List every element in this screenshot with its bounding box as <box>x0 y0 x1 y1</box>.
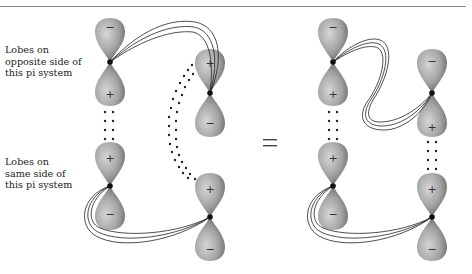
sign-minus-icon: − <box>205 117 214 130</box>
sign-minus-icon: − <box>105 21 114 34</box>
ribbon-c1-d1 <box>333 39 432 130</box>
sign-plus-icon: + <box>328 88 337 101</box>
sign-plus-icon: + <box>205 57 214 70</box>
sign-minus-icon: − <box>105 208 114 221</box>
sign-plus-icon: + <box>427 121 436 134</box>
sign-minus-icon: − <box>205 243 214 256</box>
equals-sign <box>263 139 277 146</box>
dotted-link-d1-d2 <box>427 141 437 170</box>
sign-plus-icon: + <box>105 88 114 101</box>
orbital-diagram: − + + − + − + − <box>0 0 472 274</box>
sign-plus-icon: + <box>205 183 214 196</box>
sign-plus-icon: + <box>427 183 436 196</box>
sign-plus-icon: + <box>328 152 337 165</box>
sign-plus-icon: + <box>105 152 114 165</box>
dotted-link-a1-a2 <box>104 111 114 140</box>
sign-minus-icon: − <box>328 208 337 221</box>
sign-minus-icon: − <box>427 55 436 68</box>
dotted-arc-b1-b2 <box>168 64 198 180</box>
sign-minus-icon: − <box>328 21 337 34</box>
dotted-link-c1-c2 <box>328 111 338 140</box>
sign-minus-icon: − <box>427 243 436 256</box>
